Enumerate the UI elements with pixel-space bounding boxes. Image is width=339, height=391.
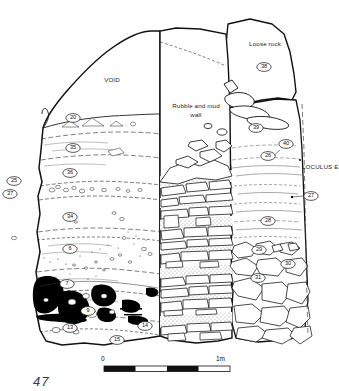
- context-label-27: 27: [304, 193, 318, 199]
- context-label-37: 37: [3, 191, 17, 197]
- context-label-28: 28: [261, 218, 275, 224]
- context-label-40: 40: [279, 141, 293, 147]
- context-label-15: 15: [110, 337, 124, 343]
- context-label-14: 14: [138, 323, 152, 329]
- context-label-26: 26: [261, 153, 275, 159]
- context-label-9: 9: [81, 308, 95, 314]
- context-label-25: 25: [7, 178, 21, 184]
- context-label-35: 35: [66, 145, 80, 151]
- loculus-e-label: LOCULUS E: [302, 163, 338, 171]
- context-label-7: 7: [60, 281, 74, 287]
- wall-label-line2: wall: [190, 111, 201, 119]
- context-label-6: 6: [63, 246, 77, 252]
- figure-number: 47: [33, 374, 49, 389]
- loose-rock-label: Loose rock: [249, 40, 281, 48]
- section-drawing-figure: VOID Rubble and mud wall Loose rock LOCU…: [0, 0, 339, 391]
- wall-label-line1: Rubble and mud: [172, 102, 220, 110]
- section-drawing-canvas: [0, 0, 339, 391]
- context-label-29: 29: [252, 247, 266, 253]
- context-label-36: 36: [63, 170, 77, 176]
- context-label-39: 39: [249, 125, 263, 131]
- context-label-38: 38: [257, 64, 271, 70]
- scale-end-label: 1m: [216, 355, 225, 362]
- context-label-13: 13: [63, 325, 77, 331]
- scale-start-label: 0: [101, 355, 105, 362]
- context-label-34: 34: [63, 214, 77, 220]
- context-label-20: 20: [66, 115, 80, 121]
- context-label-30: 30: [281, 261, 295, 267]
- void-label: VOID: [104, 76, 120, 84]
- context-label-31: 31: [251, 275, 265, 281]
- scale-bar: [104, 366, 230, 372]
